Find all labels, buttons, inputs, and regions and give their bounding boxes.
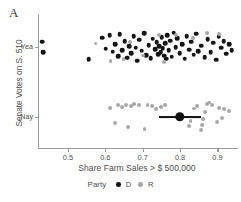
data-point-d [202, 55, 207, 60]
data-point-r [154, 107, 158, 111]
estimate-point [175, 112, 184, 121]
data-point-d [196, 49, 201, 54]
data-point-r [227, 109, 231, 113]
data-point-d [139, 48, 144, 53]
legend-label-d: D [126, 180, 131, 189]
data-point-r [162, 60, 166, 64]
data-point-r [205, 31, 209, 35]
data-point-d [189, 39, 194, 44]
data-point-r [201, 123, 205, 127]
data-point-r [159, 105, 163, 109]
y-tick-mark [35, 47, 39, 48]
data-point-d [173, 45, 178, 50]
data-point-d [219, 46, 224, 51]
x-tick-mark [68, 149, 69, 152]
legend-title: Party [88, 180, 107, 189]
data-point-d [214, 57, 219, 62]
data-point-r [222, 107, 226, 111]
data-point-r [187, 124, 191, 128]
data-point-d [110, 49, 115, 54]
data-point-d [87, 57, 92, 62]
data-point-d [208, 50, 213, 55]
data-point-r [128, 40, 132, 44]
data-point-d [129, 51, 134, 56]
data-point-r [109, 59, 113, 63]
data-point-r [141, 54, 145, 58]
legend-label-r: R [148, 180, 153, 189]
data-point-d [199, 43, 204, 48]
legend-dot-r-icon [138, 182, 143, 187]
data-point-d [229, 48, 234, 53]
x-tick-label: 0.7 [138, 153, 148, 162]
data-point-d [167, 48, 172, 53]
data-point-r [122, 57, 126, 61]
data-point-d [182, 56, 187, 61]
data-point-d [116, 54, 121, 59]
legend: Party D R [0, 180, 241, 189]
data-point-d [165, 33, 170, 38]
data-point-d [127, 44, 132, 49]
x-tick-label: 0.9 [212, 153, 222, 162]
legend-item-r[interactable]: R [138, 180, 153, 189]
data-point-d [177, 51, 182, 56]
data-point-d [107, 33, 112, 38]
data-point-d [40, 40, 45, 45]
data-point-d [133, 46, 138, 51]
data-point-d [227, 42, 232, 47]
x-axis-label: Share Farm Sales > $ 500,000 [38, 163, 236, 173]
data-point-r [191, 36, 195, 40]
y-tick-label: Nay [20, 112, 33, 121]
data-point-d [125, 55, 130, 60]
data-point-r [199, 128, 203, 132]
x-tick-label: 0.5 [63, 153, 73, 162]
data-point-d [224, 52, 229, 57]
data-point-r [220, 116, 224, 120]
data-point-d [118, 32, 123, 37]
x-tick-mark [180, 149, 181, 152]
data-point-d [168, 38, 173, 43]
data-point-d [135, 58, 140, 63]
data-point-r [124, 103, 128, 107]
legend-dot-d-icon [116, 182, 121, 187]
data-point-r [203, 110, 207, 114]
legend-item-d[interactable]: D [116, 180, 131, 189]
data-point-d [187, 47, 192, 52]
data-point-r [195, 105, 199, 109]
data-point-d [211, 40, 216, 45]
data-point-d [163, 41, 168, 46]
data-point-d [221, 39, 226, 44]
data-point-r [150, 105, 154, 109]
data-point-r [189, 119, 193, 123]
figure-panel-a: A Senate Votes on S. 510 Share Farm Sale… [0, 0, 241, 202]
data-point-d [113, 42, 118, 47]
data-point-d [146, 43, 151, 48]
data-point-r [127, 125, 131, 129]
data-point-d [120, 48, 125, 53]
x-tick-label: 0.6 [100, 153, 110, 162]
data-point-r [113, 121, 117, 125]
data-point-d [137, 38, 142, 43]
data-point-d [100, 35, 105, 40]
data-point-d [161, 46, 166, 51]
data-point-r [217, 32, 221, 36]
data-point-d [149, 56, 154, 61]
data-point-d [191, 52, 196, 57]
data-point-d [205, 37, 210, 42]
data-point-d [103, 46, 108, 51]
x-tick-mark [105, 149, 106, 152]
data-point-r [163, 103, 167, 107]
x-tick-mark [143, 149, 144, 152]
data-point-r [215, 120, 219, 124]
data-point-r [143, 127, 147, 131]
y-tick-mark [35, 117, 39, 118]
data-point-d [122, 39, 127, 44]
x-tick-mark [217, 149, 218, 152]
data-point-d [170, 55, 175, 60]
x-tick-label: 0.8 [175, 153, 185, 162]
data-point-r [174, 33, 178, 37]
data-point-r [108, 106, 112, 110]
data-point-d [142, 31, 147, 36]
data-point-d [131, 34, 136, 39]
data-point-r [217, 106, 221, 110]
data-point-r [157, 33, 161, 37]
